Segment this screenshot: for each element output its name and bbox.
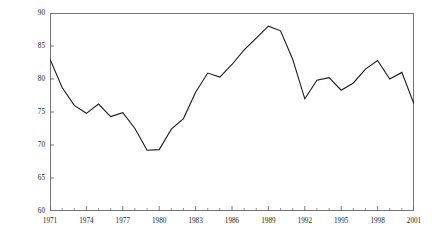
x-tick-label: 1971 [30, 217, 70, 225]
x-tick-label: 1986 [212, 217, 252, 225]
y-tick-label: 70 [19, 141, 45, 149]
x-tick-label: 1992 [285, 217, 325, 225]
y-tick-label: 75 [19, 108, 45, 116]
y-tick-label: 65 [19, 174, 45, 182]
chart-figure: Support for Pro-Environment Policies (Pe… [0, 0, 432, 238]
x-tick-label: 1977 [103, 217, 143, 225]
x-tick-label: 1980 [139, 217, 179, 225]
x-tick-label: 2001 [394, 217, 432, 225]
y-tick-label: 80 [19, 75, 45, 83]
chart-svg [50, 13, 414, 211]
x-tick-label: 1989 [248, 217, 288, 225]
x-tick-label: 1974 [66, 217, 106, 225]
plot-area [50, 13, 414, 211]
y-axis-label: Support for Pro-Environment Policies (Pe… [0, 0, 13, 26]
x-tick-label: 1995 [321, 217, 361, 225]
plot-border [51, 14, 414, 211]
y-tick-label: 85 [19, 42, 45, 50]
y-tick-label: 60 [19, 207, 45, 215]
x-tick-label: 1998 [358, 217, 398, 225]
x-tick-label: 1983 [176, 217, 216, 225]
y-tick-label: 90 [19, 9, 45, 17]
